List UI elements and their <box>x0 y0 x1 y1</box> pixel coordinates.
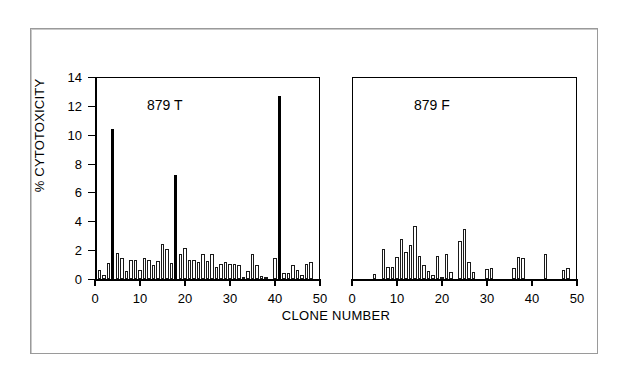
bar <box>125 271 128 279</box>
x-tick-mark <box>184 279 186 286</box>
bar <box>210 254 213 279</box>
x-tick-mark <box>351 279 353 286</box>
x-tick-label: 10 <box>133 291 147 306</box>
x-tick-mark <box>441 279 443 286</box>
bar <box>134 260 137 279</box>
bar <box>566 268 569 279</box>
bar <box>404 252 407 279</box>
x-tick-label: 30 <box>223 291 237 306</box>
bar <box>422 265 425 279</box>
bar <box>152 265 155 279</box>
bar <box>201 254 204 279</box>
x-tick-mark <box>576 279 578 286</box>
bar <box>472 272 475 279</box>
bar <box>395 257 398 279</box>
bar <box>98 270 101 279</box>
bar-group-879-f <box>352 77 577 279</box>
bar <box>467 262 470 279</box>
x-tick-mark <box>229 279 231 286</box>
bar <box>400 239 403 279</box>
y-tick-mark <box>88 192 95 193</box>
bar <box>300 275 303 279</box>
y-tick-label: 6 <box>56 185 82 200</box>
bar <box>490 268 493 279</box>
bar <box>382 249 385 279</box>
y-axis-label: % CYTOTOXICITY <box>32 51 47 221</box>
y-tick-label: 12 <box>56 98 82 113</box>
x-tick-mark <box>396 279 398 286</box>
bar <box>174 175 177 279</box>
figure-root: % CYTOTOXICITY 02468101214 879 T 0102030… <box>0 0 624 384</box>
bar <box>147 260 150 279</box>
y-tick-label: 8 <box>56 156 82 171</box>
bar <box>287 273 290 279</box>
bar <box>431 275 434 279</box>
bar <box>233 264 236 279</box>
bar <box>161 244 164 279</box>
bar <box>237 265 240 279</box>
bar <box>305 264 308 279</box>
bar <box>255 265 258 279</box>
bar <box>264 277 267 279</box>
bar <box>215 267 218 279</box>
bar <box>129 260 132 279</box>
x-tick-label: 20 <box>178 291 192 306</box>
bar <box>512 268 515 279</box>
y-tick-mark <box>88 164 95 165</box>
bar <box>120 258 123 279</box>
bar <box>409 245 412 279</box>
bar <box>197 262 200 279</box>
x-tick-label: 40 <box>525 291 539 306</box>
bar <box>427 271 430 279</box>
panel-baseline <box>95 279 320 281</box>
bar <box>282 273 285 279</box>
bar <box>107 263 110 279</box>
x-tick-label: 30 <box>480 291 494 306</box>
bar <box>246 271 249 279</box>
x-tick-mark <box>319 279 321 286</box>
y-tick-label: 4 <box>56 214 82 229</box>
bar <box>309 262 312 279</box>
x-axis-label: CLONE NUMBER <box>282 308 390 323</box>
bar <box>219 264 222 279</box>
bar <box>449 272 452 279</box>
panel-879-t: 879 T 01020304050 <box>95 77 320 279</box>
bar <box>562 270 565 279</box>
bar <box>521 258 524 279</box>
x-tick-label: 50 <box>570 291 584 306</box>
x-tick-mark <box>139 279 141 286</box>
bar <box>192 260 195 279</box>
y-tick-mark-group <box>88 0 95 384</box>
bar <box>242 277 245 279</box>
bar <box>143 258 146 279</box>
bar <box>273 258 276 279</box>
x-tick-mark <box>486 279 488 286</box>
x-tick-label: 50 <box>313 291 327 306</box>
x-tick-label: 40 <box>268 291 282 306</box>
bar <box>413 226 416 279</box>
bar <box>165 249 168 279</box>
y-tick-label-group: 02468101214 <box>56 0 82 384</box>
bar <box>228 264 231 279</box>
bar <box>373 274 376 279</box>
bar <box>251 254 254 279</box>
bar <box>260 276 263 279</box>
panel-baseline <box>352 279 577 281</box>
y-tick-label: 14 <box>56 70 82 85</box>
y-tick-label: 10 <box>56 127 82 142</box>
x-tick-label: 0 <box>91 291 98 306</box>
bar <box>291 265 294 279</box>
bar <box>156 261 159 279</box>
x-tick-label: 20 <box>435 291 449 306</box>
bar-group-879-t <box>95 77 320 279</box>
y-tick-label: 0 <box>56 272 82 287</box>
y-tick-mark <box>88 135 95 136</box>
panel-879-f: 879 F 01020304050 <box>352 77 577 279</box>
bar <box>418 256 421 279</box>
bar <box>296 270 299 279</box>
bar <box>116 253 119 279</box>
bar <box>386 267 389 279</box>
bar <box>458 241 461 279</box>
y-tick-mark <box>88 221 95 222</box>
bar <box>188 260 191 279</box>
